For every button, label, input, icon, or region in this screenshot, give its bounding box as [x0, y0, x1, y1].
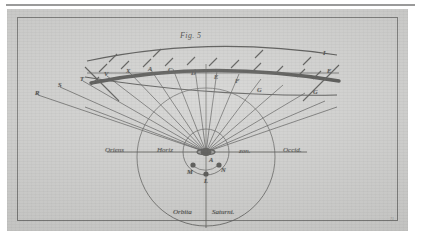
point-label-R: R — [35, 89, 39, 96]
figure-title: Fig. 5 — [180, 31, 202, 40]
engraving-ink — [38, 46, 339, 228]
satellite-M-dot — [190, 162, 195, 167]
point-label-S: S — [58, 81, 62, 88]
orbit-label-orbita: Orbita — [173, 208, 192, 216]
horizon-label-oriens: Oriens — [105, 146, 124, 154]
point-label-E: E — [214, 73, 218, 80]
horizon-label-occid: Occid. — [283, 146, 301, 154]
top-rule-divider — [6, 4, 415, 6]
edge-label-G2: G — [313, 88, 318, 95]
point-label-D: D — [191, 69, 196, 76]
point-label-F: F — [235, 77, 239, 84]
figure-artwork — [7, 9, 408, 231]
point-label-C: C — [168, 66, 172, 73]
satellite-L-dot — [203, 171, 208, 176]
band-lower-stroke — [85, 77, 337, 95]
engraving-plate: Fig. 5 R S T V X A C D E F G I E G Orien… — [7, 9, 408, 231]
point-label-A: A — [148, 65, 152, 72]
point-label-G: G — [257, 86, 262, 93]
satellite-label-M: M — [187, 168, 193, 175]
horizon-label-zon: zon. — [239, 147, 250, 155]
point-label-T: T — [80, 75, 84, 82]
point-label-V: V — [104, 70, 108, 77]
orbit-label-saturni: Saturni. — [212, 208, 234, 216]
point-label-X: X — [126, 67, 130, 74]
horizon-label-horiz: Horiz — [157, 146, 173, 154]
screenshot-root: Fig. 5 R S T V X A C D E F G I E G Orien… — [0, 0, 421, 239]
satellite-label-L: L — [204, 177, 208, 184]
band-upper-arc — [87, 46, 337, 61]
satellite-label-N: N — [221, 166, 226, 173]
edge-label-E2: E — [327, 67, 331, 74]
saturn-label-A: A — [209, 156, 213, 163]
page-corner-mark: 71 — [390, 216, 394, 221]
edge-label-I: I — [323, 49, 326, 56]
